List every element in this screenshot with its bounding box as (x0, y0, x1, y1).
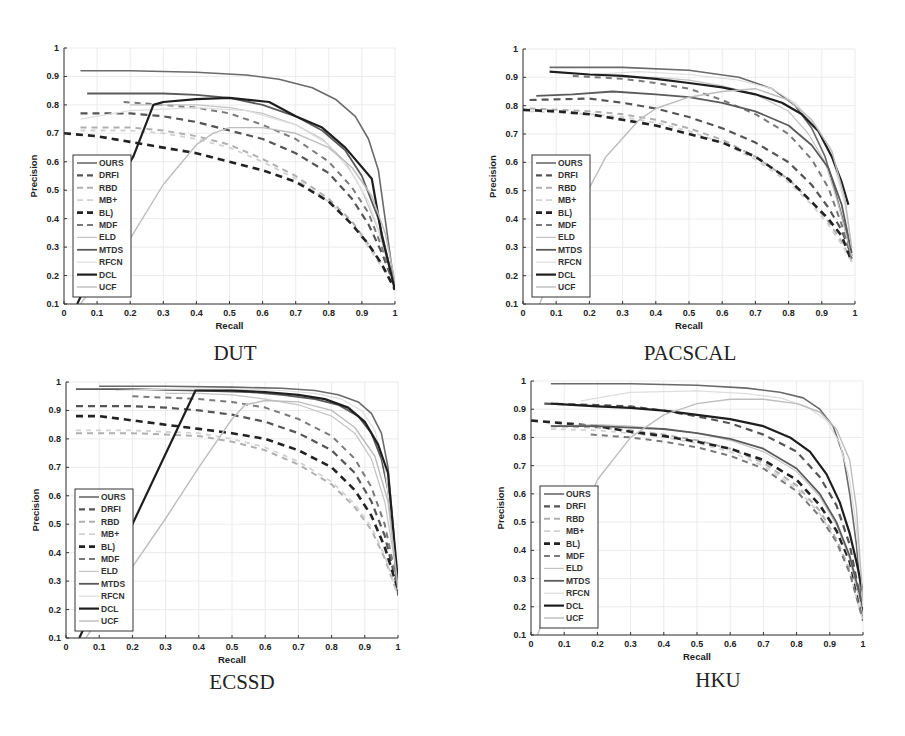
x-tick-label: 0.3 (159, 642, 172, 652)
legend-label: MDF (101, 554, 119, 564)
y-tick-label: 0.4 (46, 214, 59, 224)
series-mtds (87, 94, 395, 290)
legend-label: RFCN (558, 257, 582, 267)
x-tick-label: 0.8 (325, 642, 338, 652)
legend-label: ELD (558, 232, 575, 242)
y-axis-label: Precision (487, 155, 498, 198)
y-tick-label: 0.1 (513, 630, 526, 640)
y-tick-label: 0.8 (513, 432, 526, 442)
x-tick-label: 0 (63, 642, 68, 652)
y-tick-label: 0.5 (48, 519, 61, 529)
y-tick-label: 0.2 (505, 271, 518, 281)
y-tick-label: 1 (521, 376, 526, 386)
y-tick-label: 0.7 (46, 128, 59, 138)
y-tick-label: 0.9 (48, 405, 61, 415)
x-tick-label: 0.1 (550, 308, 563, 318)
legend-label: BL) (558, 208, 572, 218)
legend-label: RFCN (101, 591, 125, 601)
x-axis-label: Recall (675, 320, 703, 331)
series-mdf (124, 102, 395, 287)
x-tick-label: 0.1 (558, 639, 571, 649)
x-tick-label: 0.7 (292, 642, 305, 652)
y-axis-label: Precision (495, 486, 506, 529)
y-tick-label: 0.3 (46, 242, 59, 252)
y-tick-label: 0.5 (505, 186, 518, 196)
y-tick-label: 0.9 (505, 72, 518, 82)
y-tick-label: 0.3 (505, 242, 518, 252)
caption-dut: DUT (135, 341, 335, 366)
y-tick-label: 0.5 (46, 185, 59, 195)
legend-label: MTDS (566, 576, 590, 586)
legend: OURSDRFIRBDMB+BL)MDFELDMTDSRFCNDCLUCF (75, 489, 133, 631)
y-tick-label: 0.7 (48, 462, 61, 472)
x-tick-label: 0 (520, 308, 525, 318)
legend-label: MDF (558, 220, 576, 230)
x-tick-label: 1 (852, 308, 857, 318)
x-tick-label: 0.9 (816, 308, 829, 318)
legend-label: DCL (558, 270, 575, 280)
series-rfcn (589, 72, 851, 248)
x-tick-label: 0.6 (716, 308, 729, 318)
y-tick-label: 0.9 (513, 404, 526, 414)
legend-label: RBD (99, 183, 117, 193)
legend: OURSDRFIRBDMB+BL)MDFELDMTDSRFCNDCLUCF (540, 486, 598, 628)
legend-label: RBD (101, 517, 119, 527)
legend-label: UCF (101, 616, 118, 626)
x-tick-label: 0.2 (126, 642, 139, 652)
legend-label: RFCN (99, 257, 123, 267)
x-tick-label: 0.5 (226, 642, 239, 652)
legend-label: DRFI (558, 170, 578, 180)
y-tick-label: 0.8 (505, 101, 518, 111)
y-tick-label: 0.6 (48, 491, 61, 501)
x-tick-label: 0.9 (356, 308, 369, 318)
y-axis-label: Precision (28, 154, 39, 197)
legend-label: UCF (558, 282, 575, 292)
y-tick-label: 1 (513, 44, 518, 54)
legend-label: MDF (566, 551, 584, 561)
y-tick-label: 0.1 (46, 299, 59, 309)
y-tick-label: 0.7 (505, 129, 518, 139)
y-tick-label: 0.3 (48, 576, 61, 586)
plot-dut: 00.10.20.30.40.50.60.70.80.910.10.20.30.… (0, 0, 452, 370)
x-tick-label: 0.4 (658, 639, 671, 649)
series-ours (550, 67, 852, 258)
x-tick-label: 0.2 (591, 639, 604, 649)
legend-label: MTDS (101, 579, 125, 589)
x-tick-label: 0.3 (616, 308, 629, 318)
legend-label: RFCN (566, 588, 590, 598)
legend: OURSDRFIRBDMB+BL)MDFELDMTDSRFCNDCLUCF (73, 155, 131, 297)
y-tick-label: 1 (54, 43, 59, 53)
legend-label: BL) (99, 208, 113, 218)
x-tick-label: 0.6 (724, 639, 737, 649)
x-tick-label: 0 (61, 308, 66, 318)
legend-label: MB+ (566, 526, 584, 536)
x-tick-label: 1 (860, 639, 865, 649)
plot-hku: 00.10.20.30.40.50.60.70.80.910.10.20.30.… (452, 370, 905, 736)
y-tick-label: 0.6 (505, 157, 518, 167)
series-mdf (591, 435, 863, 621)
y-tick-label: 0.2 (46, 271, 59, 281)
legend-label: MDF (99, 220, 117, 230)
y-tick-label: 0.3 (513, 574, 526, 584)
y-tick-label: 0.2 (48, 605, 61, 615)
x-axis-label: Recall (216, 320, 244, 331)
x-tick-label: 0 (528, 639, 533, 649)
y-tick-label: 0.4 (48, 548, 61, 558)
x-tick-label: 0.7 (757, 639, 770, 649)
y-axis-label: Precision (30, 488, 41, 531)
legend-label: UCF (99, 282, 116, 292)
x-tick-label: 0.7 (289, 308, 302, 318)
y-tick-label: 0.6 (513, 489, 526, 499)
legend-label: MTDS (99, 245, 123, 255)
x-tick-label: 0.6 (259, 642, 272, 652)
y-tick-label: 0.6 (46, 157, 59, 167)
x-tick-label: 0.2 (583, 308, 596, 318)
legend-label: MTDS (558, 245, 582, 255)
x-tick-label: 0.9 (824, 639, 837, 649)
legend-label: OURS (101, 492, 126, 502)
x-tick-label: 0.5 (223, 308, 236, 318)
pr-curve-chart-dut: 00.10.20.30.40.50.60.70.80.910.10.20.30.… (0, 0, 452, 370)
legend-label: BL) (566, 539, 580, 549)
x-tick-label: 0.9 (359, 642, 372, 652)
legend-label: ELD (101, 566, 118, 576)
